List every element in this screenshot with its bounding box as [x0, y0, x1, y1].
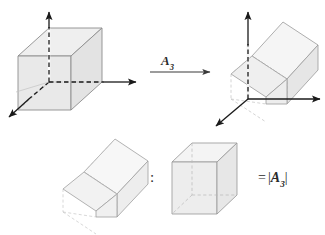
source-cube-group	[9, 12, 136, 117]
ratio-denominator-shape	[172, 143, 237, 214]
figure-canvas	[0, 0, 325, 235]
abs-bar-close: |	[285, 170, 288, 185]
result-subscript: 3	[280, 179, 285, 189]
target-axis-z	[216, 99, 248, 126]
result-label: =|A3|	[258, 171, 288, 188]
ratio-colon: :	[150, 170, 154, 185]
ratio-denominator-front-face	[172, 162, 217, 214]
ratio-numerator-shape	[63, 139, 148, 234]
target-parallelepiped-group	[216, 12, 320, 126]
transform-symbol: A	[161, 53, 170, 68]
figure-root: A3 : =|A3|	[0, 0, 325, 235]
equals-sign: =	[258, 170, 266, 185]
result-symbol: A	[271, 170, 280, 185]
transform-label: A3	[161, 54, 174, 70]
transform-subscript: 3	[170, 62, 174, 72]
